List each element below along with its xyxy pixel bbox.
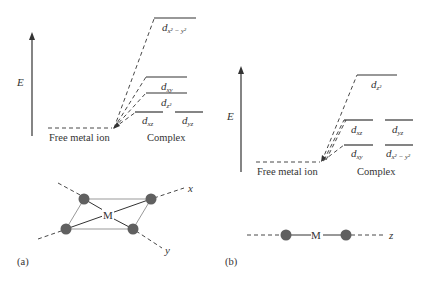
complex-label: Complex [147,132,186,143]
panel-label-a: (a) [17,256,29,268]
x-axis-dash [154,188,184,198]
metal-center-label: M [103,209,113,221]
z-axis-label: z [388,229,394,241]
ligand-atom [79,194,90,205]
label-dyz: dyz [392,123,404,137]
x-axis-label: x [187,182,193,194]
label-dyz: dyz [182,114,194,128]
free-ion-label: Free metal ion [257,166,318,177]
label-dxz: dxz [142,114,154,128]
ligand-atom [341,230,352,241]
square-planar-geometry: M x y [38,182,193,256]
label-dx2y2: dx² − y² [162,21,187,35]
panel-b: E dz² dxz dyz dxy dx² − y² Free [225,66,413,268]
free-ion-label: Free metal ion [49,132,110,143]
label-dx2y2: dx² − y² [386,147,411,161]
metal-center-label: M [311,229,321,241]
label-dxy: dxy [351,147,364,161]
split-line-xz [324,120,344,160]
ligand-atom [128,224,139,235]
panel-a: E dx² − y² dxy dz² dxz dyz Free [16,18,203,268]
energy-axis-label: E [226,110,234,122]
ligand-atom [281,230,292,241]
energy-arrowhead-icon [238,66,244,74]
x-axis-dash [38,230,64,239]
y-axis-label: y [164,244,170,256]
convergence-arrowhead-icon [113,122,120,129]
label-dxy: dxy [161,80,174,94]
label-dz2: dz² [371,78,382,92]
label-dz2: dz² [161,96,172,110]
y-axis-dash [136,231,162,248]
split-line-xy [323,145,344,161]
linear-geometry: M z [247,229,394,241]
ligand-atom [146,194,157,205]
complex-label: Complex [357,166,396,177]
ligand-atom [61,224,72,235]
energy-arrowhead-icon [29,32,35,40]
crystal-field-diagram: E dx² − y² dxy dz² dxz dyz Free [0,0,433,285]
energy-axis-label: E [16,76,24,88]
label-dxz: dxz [351,123,363,137]
y-axis-dash [58,183,82,196]
panel-label-b: (b) [225,256,238,268]
